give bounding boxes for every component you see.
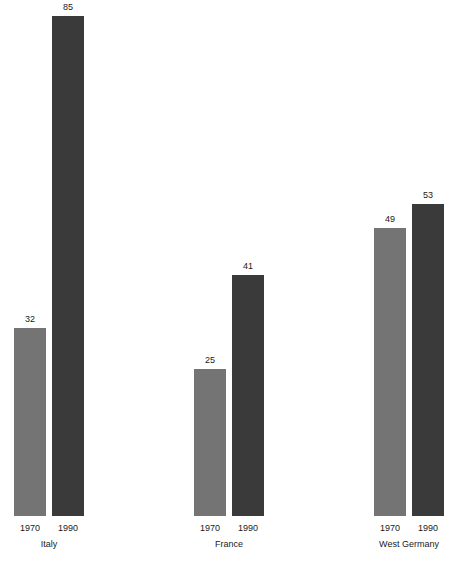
bar-group-bars: 4953 [368, 0, 450, 516]
group-category-label: Italy [41, 539, 58, 550]
bar-group-bars: 3285 [8, 0, 90, 516]
bar[interactable] [412, 204, 444, 516]
bar-slot: 41 [232, 0, 264, 516]
bar-group: 197019903285Italy [8, 0, 90, 566]
group-category-label: France [215, 539, 243, 550]
bar-value-label: 41 [243, 261, 253, 272]
x-tick-label: 1970 [200, 523, 220, 534]
bar[interactable] [52, 16, 84, 516]
x-tick-label: 1990 [238, 523, 258, 534]
x-tick-label: 1990 [58, 523, 78, 534]
bar[interactable] [14, 328, 46, 516]
bar-slot: 32 [14, 0, 46, 516]
bar-slot: 25 [194, 0, 226, 516]
x-tick-label: 1970 [20, 523, 40, 534]
bar-value-label: 25 [205, 355, 215, 366]
bar-value-label: 85 [63, 2, 73, 13]
bar[interactable] [194, 369, 226, 516]
bar[interactable] [232, 275, 264, 516]
bar-value-label: 53 [423, 190, 433, 201]
group-category-label: West Germany [379, 539, 439, 550]
x-tick-label: 1990 [418, 523, 438, 534]
bar-slot: 53 [412, 0, 444, 516]
bar-chart: 197019903285Italy197019902541France19701… [0, 0, 455, 566]
bar-slot: 85 [52, 0, 84, 516]
bar-group-bars: 2541 [188, 0, 270, 516]
bar-value-label: 32 [25, 314, 35, 325]
bar-value-label: 49 [385, 214, 395, 225]
bar[interactable] [374, 228, 406, 516]
x-tick-label: 1970 [380, 523, 400, 534]
bar-group: 197019904953West Germany [368, 0, 450, 566]
bar-slot: 49 [374, 0, 406, 516]
bar-group: 197019902541France [188, 0, 270, 566]
